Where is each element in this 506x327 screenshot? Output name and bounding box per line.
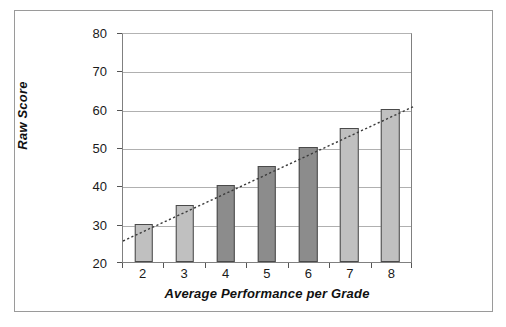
- bar-slot: [288, 34, 329, 262]
- x-tick-label: 5: [246, 266, 287, 286]
- bar-slot: [329, 34, 370, 262]
- y-tick-label: 70: [93, 64, 107, 79]
- bars-layer: [123, 34, 411, 262]
- y-tick-label: 40: [93, 179, 107, 194]
- x-tick-label: 8: [371, 266, 412, 286]
- bar-slot: [246, 34, 287, 262]
- bar-grade-8: [381, 109, 400, 262]
- chart-figure: Raw Score 80 70 60 50 40 30 20: [0, 0, 506, 327]
- bar-grade-5: [258, 166, 277, 262]
- x-tick-label: 6: [288, 266, 329, 286]
- bar-grade-2: [134, 224, 153, 262]
- plot-area: [122, 33, 412, 263]
- bar-slot: [164, 34, 205, 262]
- bar-grade-4: [217, 185, 236, 262]
- y-tick-label: 20: [93, 256, 107, 271]
- bar-grade-3: [175, 205, 194, 263]
- y-tick-label: 30: [93, 217, 107, 232]
- y-tick-label: 80: [93, 26, 107, 41]
- x-axis-tick-labels: 2 3 4 5 6 7 8: [122, 266, 412, 286]
- y-axis-tick-labels: 80 70 60 50 40 30 20: [0, 33, 115, 263]
- x-tick-label: 4: [205, 266, 246, 286]
- bar-slot: [370, 34, 411, 262]
- x-tick-label: 3: [163, 266, 204, 286]
- bar-slot: [123, 34, 164, 262]
- y-tick-label: 60: [93, 102, 107, 117]
- y-tick-label: 50: [93, 141, 107, 156]
- x-tick-label: 7: [329, 266, 370, 286]
- bar-grade-6: [299, 147, 318, 262]
- bar-slot: [205, 34, 246, 262]
- bar-grade-7: [340, 128, 359, 262]
- x-tick-label: 2: [122, 266, 163, 286]
- x-axis-title: Average Performance per Grade: [122, 286, 412, 301]
